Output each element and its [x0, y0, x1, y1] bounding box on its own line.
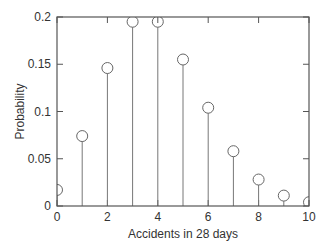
y-tick-label: 0.2	[34, 10, 51, 24]
stem-chart: 024681000.050.10.150.2 Accidents in 28 d…	[0, 0, 329, 248]
y-tick-label: 0.15	[28, 57, 52, 71]
y-tick-label: 0.05	[28, 152, 52, 166]
tick-labels: 024681000.050.10.150.2	[28, 10, 316, 224]
x-tick-label: 8	[255, 210, 262, 224]
data-point-marker	[178, 54, 189, 65]
x-tick-label: 4	[154, 210, 161, 224]
y-tick-label: 0	[44, 199, 51, 213]
x-tick-label: 10	[302, 210, 316, 224]
x-tick-label: 0	[54, 210, 61, 224]
y-tick-label: 0.1	[34, 105, 51, 119]
y-axis-label: Probability	[13, 83, 27, 139]
x-tick-label: 6	[205, 210, 212, 224]
data-point-marker	[77, 131, 88, 142]
data-point-marker	[278, 190, 289, 201]
data-point-marker	[102, 63, 113, 74]
x-tick-label: 2	[104, 210, 111, 224]
data-series	[52, 16, 315, 207]
data-point-marker	[228, 146, 239, 157]
x-axis-label: Accidents in 28 days	[128, 227, 238, 241]
data-point-marker	[203, 102, 214, 113]
data-point-marker	[253, 174, 264, 185]
data-point-marker	[127, 16, 138, 27]
